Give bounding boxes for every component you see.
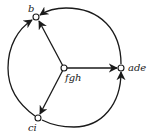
label-b: b (28, 3, 34, 14)
node-fgh (61, 65, 67, 71)
node-ade (118, 65, 124, 71)
graph-diagram: b fgh ade ci (0, 0, 150, 140)
label-ci: ci (28, 122, 37, 133)
node-b (33, 14, 39, 20)
label-fgh: fgh (64, 72, 82, 83)
edge-fgh-to-ci (40, 68, 64, 114)
edge-ade-to-b (40, 8, 121, 64)
edge-ci-to-b (8, 20, 35, 116)
label-ade: ade (128, 62, 146, 73)
edge-fgh-to-b (39, 21, 64, 68)
node-ci (35, 115, 41, 121)
